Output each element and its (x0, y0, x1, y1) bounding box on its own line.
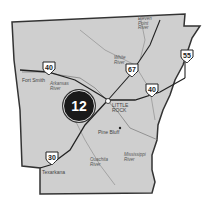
highway-shield-40-west: 40 (42, 60, 56, 75)
city-pine-bluff: Pine Bluff (98, 130, 119, 135)
highway-shield-30: 30 (45, 150, 59, 165)
city-fort-smith: Fort Smith (22, 78, 45, 83)
river-ouachita: Ouachita River (90, 158, 108, 167)
highway-shield-40-east: 40 (145, 82, 159, 97)
river-mississippi: Mississippi River (124, 153, 148, 162)
river-white: White River (114, 56, 128, 65)
river-arkansas: Arkansas River (50, 82, 66, 91)
state-outline (12, 14, 200, 194)
arkansas-map (0, 0, 217, 207)
city-little-rock: LITTLE ROCK (112, 103, 134, 113)
map-marker-12[interactable]: 12 (63, 90, 95, 122)
river-eleven-point: Eleven Point River (138, 17, 156, 31)
city-texarkana: Texarkana (42, 170, 65, 175)
highway-shield-55: 55 (180, 48, 194, 63)
